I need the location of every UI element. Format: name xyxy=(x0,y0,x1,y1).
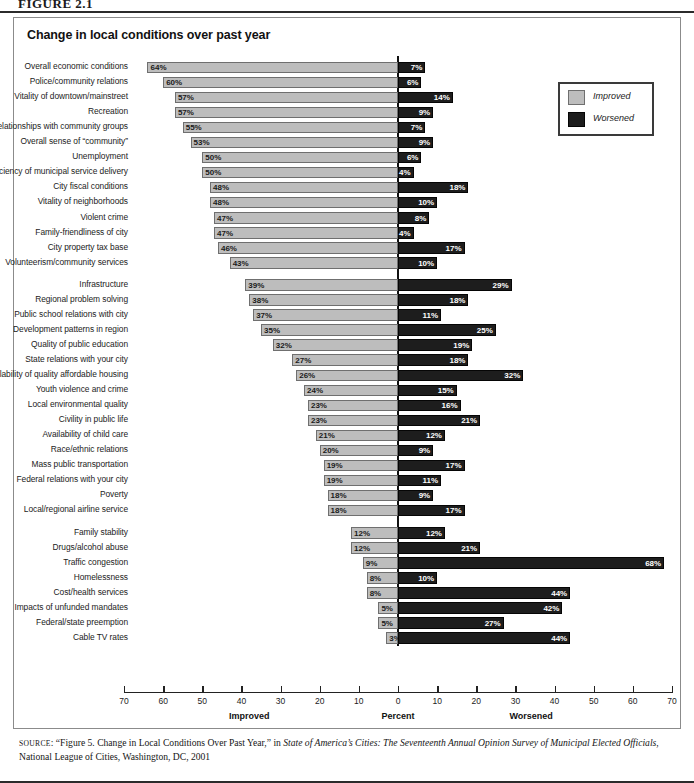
row-label: Overall economic conditions xyxy=(25,61,128,71)
chart-row: Availability of quality affordable housi… xyxy=(0,368,694,383)
bar-value-worsened: 17% xyxy=(443,460,462,471)
bar-value-improved: 38% xyxy=(252,295,268,306)
bar-value-worsened: 11% xyxy=(419,310,438,321)
row-label: Federal/state preemption xyxy=(36,617,128,627)
bar-improved xyxy=(218,242,398,254)
axis-tick-label: 70 xyxy=(119,696,128,706)
bar-value-improved: 48% xyxy=(213,197,229,208)
diverging-bar-plot: Overall economic conditions64%7%Police/c… xyxy=(0,60,694,690)
axis-tick-label: 60 xyxy=(628,696,637,706)
row-label: State relations with your city xyxy=(25,354,128,364)
bar-improved xyxy=(210,182,398,194)
row-label: Volunteerism/community services xyxy=(5,257,128,267)
chart-row: Regional problem solving38%18% xyxy=(0,293,694,308)
bar-value-improved: 64% xyxy=(150,62,166,73)
bar-value-improved: 53% xyxy=(194,137,210,148)
chart-row: Violent crime47%8% xyxy=(0,211,694,226)
chart-row: City property tax base46%17% xyxy=(0,241,694,256)
figure-label: FIGURE 2.1 xyxy=(18,0,93,8)
chart-row: Youth violence and crime24%15% xyxy=(0,383,694,398)
bar-value-improved: 47% xyxy=(217,213,233,224)
source-text-a: : “Figure 5. Change in Local Conditions … xyxy=(51,737,284,748)
bar-value-worsened: 9% xyxy=(411,490,430,501)
bar-value-worsened: 18% xyxy=(446,182,465,193)
bar-value-worsened: 7% xyxy=(403,62,422,73)
bar-value-improved: 47% xyxy=(217,228,233,239)
axis-tick xyxy=(359,686,360,693)
axis-tick xyxy=(241,686,242,693)
axis-tick-label: 0 xyxy=(396,696,401,706)
row-label: Drugs/alcohol abuse xyxy=(53,542,128,552)
bar-value-worsened: 15% xyxy=(435,385,454,396)
x-axis: 70605040302010010203040506070ImprovedPer… xyxy=(0,692,694,732)
bar-worsened xyxy=(398,557,664,569)
bar-value-worsened: 44% xyxy=(548,588,567,599)
bar-value-worsened: 27% xyxy=(482,618,501,629)
row-label: Recreation xyxy=(88,106,128,116)
bar-value-improved: 8% xyxy=(370,573,382,584)
bar-value-worsened: 14% xyxy=(431,92,450,103)
row-label: Civility in public life xyxy=(59,414,128,424)
chart-row: City relationships with community groups… xyxy=(0,120,694,135)
bar-value-worsened: 12% xyxy=(423,528,442,539)
bar-value-improved: 9% xyxy=(366,558,378,569)
bar-value-worsened: 18% xyxy=(446,355,465,366)
bar-value-worsened: 17% xyxy=(443,505,462,516)
chart-row: Cable TV rates3%44% xyxy=(0,631,694,646)
axis-tick xyxy=(202,686,203,693)
bar-value-worsened: 9% xyxy=(411,445,430,456)
bar-improved xyxy=(202,152,398,164)
axis-tick xyxy=(437,686,438,693)
row-label: Infrastructure xyxy=(79,279,128,289)
chart-row: Local/regional airline service18%17% xyxy=(0,503,694,518)
bar-improved xyxy=(147,62,398,74)
bar-value-improved: 8% xyxy=(370,588,382,599)
bar-value-worsened: 8% xyxy=(407,213,426,224)
axis-tick-label: 50 xyxy=(589,696,598,706)
chart-row: Family stability12%12% xyxy=(0,526,694,541)
axis-tick xyxy=(515,686,516,693)
bar-value-improved: 18% xyxy=(331,505,347,516)
row-label: Availability of quality affordable housi… xyxy=(0,369,128,379)
chart-row: Efficiency of municipal service delivery… xyxy=(0,165,694,180)
row-label: Unemployment xyxy=(72,151,128,161)
axis-tick-label: 70 xyxy=(667,696,676,706)
bar-value-improved: 18% xyxy=(331,490,347,501)
row-label: Violent crime xyxy=(80,212,128,222)
bar-value-worsened: 18% xyxy=(446,295,465,306)
chart-row: Civility in public life23%21% xyxy=(0,413,694,428)
axis-caption-improved: Improved xyxy=(229,711,270,721)
axis-tick xyxy=(398,686,399,693)
bar-worsened xyxy=(398,602,562,614)
bar-value-improved: 48% xyxy=(213,182,229,193)
row-label: Local/regional airline service xyxy=(24,504,128,514)
row-label: City property tax base xyxy=(48,242,128,252)
bar-value-improved: 23% xyxy=(311,415,327,426)
chart-row: Volunteerism/community services43%10% xyxy=(0,256,694,271)
source-title-italic-2: Officials xyxy=(623,737,656,748)
row-label: Impacts of unfunded mandates xyxy=(14,602,128,612)
bar-value-worsened: 29% xyxy=(490,280,509,291)
chart-row: Impacts of unfunded mandates5%42% xyxy=(0,601,694,616)
chart-row: Development patterns in region35%25% xyxy=(0,323,694,338)
bar-value-improved: 32% xyxy=(276,340,292,351)
axis-tick xyxy=(594,686,595,693)
chart-row: City fiscal conditions48%18% xyxy=(0,180,694,195)
bar-value-worsened: 10% xyxy=(415,573,434,584)
chart-row: Public school relations with city37%11% xyxy=(0,308,694,323)
bar-value-worsened: 7% xyxy=(403,122,422,133)
bar-value-worsened: 9% xyxy=(411,107,430,118)
row-label: Efficiency of municipal service delivery xyxy=(0,166,128,176)
bar-value-improved: 43% xyxy=(233,258,249,269)
bar-improved xyxy=(202,167,398,179)
chart-row: Cost/health services8%44% xyxy=(0,586,694,601)
axis-tick-label: 20 xyxy=(315,696,324,706)
row-label: Poverty xyxy=(100,489,128,499)
chart-row: Race/ethnic relations20%9% xyxy=(0,443,694,458)
row-label: Availability of child care xyxy=(42,429,128,439)
chart-row: Recreation57%9% xyxy=(0,105,694,120)
bar-value-worsened: 32% xyxy=(501,370,520,381)
bar-value-worsened: 16% xyxy=(439,400,458,411)
bar-improved xyxy=(245,279,398,291)
bar-value-improved: 57% xyxy=(178,107,194,118)
